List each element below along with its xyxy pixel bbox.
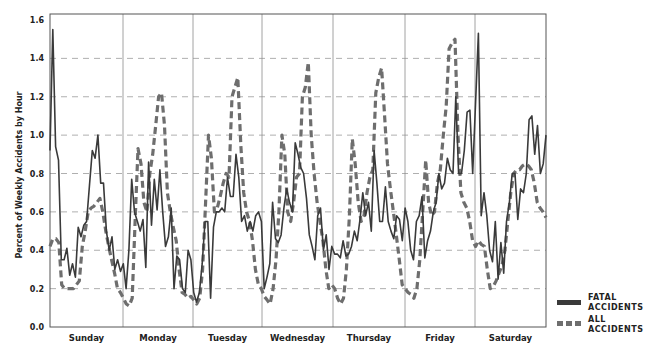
fatal-swatch-icon bbox=[557, 300, 581, 305]
y-tick-label: 0.0 bbox=[30, 323, 45, 332]
day-label-sunday: Sunday bbox=[69, 333, 105, 343]
y-tick-label: 1.2 bbox=[30, 93, 44, 102]
day-label-tuesday: Tuesday bbox=[208, 333, 247, 343]
y-tick-label: 0.4 bbox=[30, 246, 45, 255]
accidents-line-chart: 0.00.20.40.60.81.01.21.41.6 SundayMonday… bbox=[0, 0, 650, 359]
day-label-wednesday: Wednesday bbox=[270, 333, 325, 343]
y-axis-label: Percent of Weekly Accidents by Hour bbox=[15, 91, 24, 258]
day-label-thursday: Thursday bbox=[347, 333, 392, 343]
legend-item-fatal: FATAL ACCIDENTS bbox=[557, 293, 643, 312]
y-tick-label: 0.6 bbox=[30, 208, 45, 217]
y-tick-label: 0.8 bbox=[30, 170, 45, 179]
y-tick-label: 1.4 bbox=[30, 54, 45, 63]
y-axis-ticks: 0.00.20.40.60.81.01.21.41.6 bbox=[30, 16, 45, 332]
legend-fatal-line2: ACCIDENTS bbox=[588, 303, 643, 312]
day-label-friday: Friday bbox=[425, 333, 455, 343]
y-tick-label: 0.2 bbox=[30, 285, 44, 294]
legend-all-line2: ACCIDENTS bbox=[588, 325, 643, 334]
x-axis-day-labels: SundayMondayTuesdayWednesdayThursdayFrid… bbox=[69, 333, 533, 343]
day-label-saturday: Saturday bbox=[489, 333, 533, 343]
day-dividers bbox=[123, 14, 475, 327]
y-tick-label: 1.6 bbox=[30, 16, 45, 25]
legend-fatal-line1: FATAL bbox=[588, 293, 617, 302]
day-label-monday: Monday bbox=[139, 333, 177, 343]
fatal-accidents-line bbox=[50, 30, 546, 303]
all-accidents-line bbox=[50, 39, 546, 306]
y-tick-label: 1.0 bbox=[30, 131, 45, 140]
legend: FATAL ACCIDENTS ALL ACCIDENTS bbox=[557, 293, 643, 334]
legend-item-all: ALL ACCIDENTS bbox=[557, 315, 643, 334]
legend-all-line1: ALL bbox=[588, 315, 606, 324]
all-swatch-icon bbox=[557, 321, 581, 326]
